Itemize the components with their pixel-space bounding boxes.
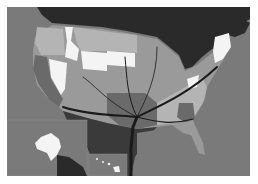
hawaii-inset: [89, 154, 127, 176]
state-wyoming: [81, 51, 107, 71]
state-south-dakota: [107, 51, 135, 67]
state-washington-oregon: [35, 27, 65, 55]
map-frame: United States flow map (grayscale chorop…: [7, 7, 250, 176]
us-flow-map[interactable]: [7, 7, 250, 176]
state-north-dakota: [117, 33, 137, 53]
alaska-inset: [7, 120, 87, 176]
